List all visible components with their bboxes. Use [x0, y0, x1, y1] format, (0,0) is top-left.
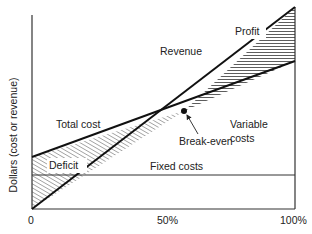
total-cost-label: Total cost: [56, 118, 100, 130]
deficit-label: Deficit: [49, 159, 78, 171]
y-axis-label: Dollars (cost or revenue): [7, 78, 19, 193]
profit-label: Profit: [235, 25, 260, 37]
revenue-label: Revenue: [160, 45, 202, 57]
x-tick-50: 50%: [157, 214, 178, 226]
variable-costs-label-line2: costs: [230, 132, 255, 144]
fixed-costs-label: Fixed costs: [150, 160, 203, 172]
variable-costs-label-line1: Variable: [230, 118, 268, 130]
break-even-point: [181, 108, 187, 114]
break-even-label: Break-even: [179, 135, 233, 147]
break-even-arrow: [187, 115, 198, 134]
x-tick-100: 100%: [280, 214, 307, 226]
x-tick-0: 0: [28, 214, 34, 226]
break-even-chart: Dollars (cost or revenue) Revenue Profit…: [0, 0, 312, 234]
